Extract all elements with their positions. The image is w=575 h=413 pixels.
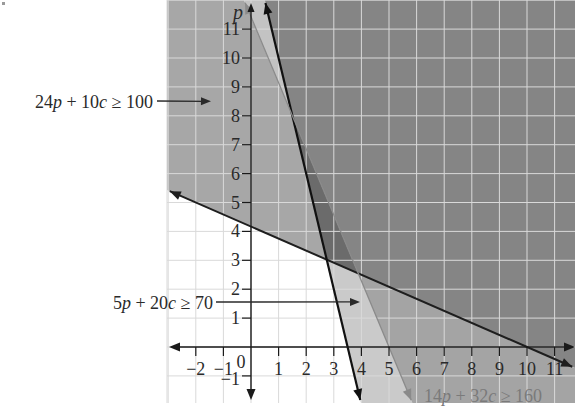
x-tick-label: −2: [186, 359, 205, 379]
y-tick-label: 5: [231, 193, 240, 213]
x-tick-label: 3: [329, 359, 338, 379]
y-tick-label: 4: [231, 221, 240, 241]
x-tick-label: 7: [440, 359, 449, 379]
x-tick-label: 9: [495, 359, 504, 379]
inequality-label-2: 5p + 20c ≥ 70: [113, 293, 213, 313]
y-tick-label: 6: [231, 164, 240, 184]
x-tick-label: 8: [467, 359, 476, 379]
x-tick-label: 2: [302, 359, 311, 379]
x-tick-label: 5: [385, 359, 394, 379]
inequality-graph: −2−11234567891011−112345678910110 24p + …: [0, 0, 575, 413]
x-tick-label: 6: [412, 359, 421, 379]
y-tick-label: 9: [231, 77, 240, 97]
origin-label: 0: [237, 352, 246, 372]
y-tick-label: 10: [222, 48, 240, 68]
y-tick-label: 7: [231, 135, 240, 155]
x-tick-label: 4: [357, 359, 366, 379]
inequality-label-3: 14p + 32c ≥ 160: [424, 386, 542, 406]
y-tick-label: 8: [231, 106, 240, 126]
x-tick-label: 1: [274, 359, 283, 379]
y-tick-label: 2: [231, 279, 240, 299]
inequality-label-1: 24p + 10c ≥ 100: [35, 92, 153, 112]
y-tick-label: 3: [231, 250, 240, 270]
y-tick-label: 1: [231, 308, 240, 328]
x-tick-label: 10: [518, 359, 536, 379]
x-tick-label: 11: [546, 359, 563, 379]
y-axis-label: p: [231, 1, 243, 24]
scan-artifact-dot: [2, 2, 5, 5]
